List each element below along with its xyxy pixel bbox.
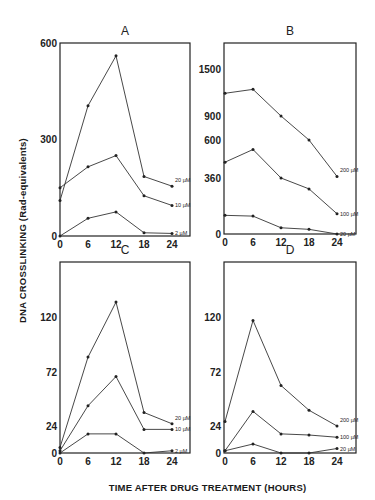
panel-a-data-point [171, 185, 174, 188]
panel-c-data-point [171, 422, 174, 425]
panel-c-data-point [143, 411, 146, 414]
panel-a-data-point [115, 154, 118, 157]
panel-c-series-line [60, 434, 172, 453]
panel-a-series-line [60, 212, 172, 236]
panel-d-data-point [280, 384, 283, 387]
panel-c-data-point [171, 449, 174, 452]
panel-a-ytick: 300 [40, 134, 57, 145]
panel-c-series-label: 2 µM [175, 448, 188, 454]
panel-d-ytick: 120 [204, 312, 221, 323]
panel-b-data-point [224, 161, 227, 164]
panel-b-data-point [336, 175, 339, 178]
panel-d-series-line [225, 320, 337, 426]
figure-canvas: A06121824030060020 µM10 µM2 µMB061218240… [0, 0, 375, 500]
panel-b-data-point [336, 233, 339, 236]
panel-a-series-label: 20 µM [175, 177, 191, 183]
panel-a-data-point [59, 235, 62, 238]
panel-b-data-point [224, 92, 227, 95]
panel-d-series-label: 20 µM [340, 446, 356, 452]
panel-b-xtick: 6 [250, 237, 256, 248]
panel-a-data-point [59, 186, 62, 189]
panel-b-frame [224, 43, 356, 234]
panel-c-data-point [143, 428, 146, 431]
panel-a-title: A [121, 24, 129, 38]
panel-a-series-line [60, 56, 172, 201]
panel-a-data-point [59, 199, 62, 202]
panel-c-ytick: 24 [46, 421, 58, 432]
panel-d-data-point [252, 319, 255, 322]
panel-a-series-label: 10 µM [175, 202, 191, 208]
y-axis-label: DNA CROSSLINKING (Rad-equivalents) [17, 121, 28, 341]
panel-a-xtick: 6 [85, 239, 91, 250]
panel-a-xtick: 24 [166, 239, 178, 250]
panel-c-ytick: 120 [40, 312, 57, 323]
panel-c-data-point [87, 356, 90, 359]
panel-b-data-point [280, 226, 283, 229]
panel-d-xtick: 18 [303, 456, 315, 467]
panel-c-xtick: 12 [110, 456, 122, 467]
panel-d-data-point [224, 449, 227, 452]
panel-c-xtick: 24 [166, 456, 178, 467]
panel-d-xtick: 24 [331, 456, 343, 467]
panel-b-series-line [225, 150, 337, 214]
panel-b-series-label: 20 µM [340, 231, 356, 237]
panel-d-data-point [280, 452, 283, 455]
panel-a-frame [60, 43, 190, 236]
panel-a-data-point [115, 210, 118, 213]
panel-d-xtick: 0 [222, 456, 228, 467]
panel-d-data-point [308, 409, 311, 412]
panel-d-data-point [252, 410, 255, 413]
panel-b-data-point [336, 212, 339, 215]
panel-c-data-point [87, 404, 90, 407]
panel-d-title: D [286, 243, 295, 257]
panel-a-data-point [143, 175, 146, 178]
panel-b-ytick: 1500 [199, 64, 222, 75]
panel-c-data-point [171, 428, 174, 431]
panel-a-data-point [171, 232, 174, 235]
panel-d-data-point [224, 420, 227, 423]
panel-b-data-point [308, 187, 311, 190]
panel-b-data-point [308, 228, 311, 231]
panel-d-data-point [252, 443, 255, 446]
panel-c-data-point [115, 375, 118, 378]
panel-d-data-point [308, 452, 311, 455]
panel-d-series-label: 200 µM [340, 417, 359, 423]
panel-d-xtick: 6 [250, 456, 256, 467]
panel-c-series-label: 20 µM [175, 415, 191, 421]
panel-d-data-point [336, 425, 339, 428]
panel-c-ytick: 72 [46, 367, 58, 378]
panel-b-series-line [225, 215, 337, 234]
panel-d-xtick: 12 [275, 456, 287, 467]
panel-b-ytick: 900 [204, 111, 221, 122]
panel-c-data-point [115, 301, 118, 304]
panel-b-ytick: 0 [215, 229, 221, 240]
panel-b-data-point [224, 214, 227, 217]
panel-b-data-point [252, 215, 255, 218]
panel-c-xtick: 18 [138, 456, 150, 467]
panel-a-data-point [87, 165, 90, 168]
panel-c-data-point [87, 432, 90, 435]
panel-b-data-point [280, 115, 283, 118]
panel-b-series-line [225, 89, 337, 176]
panel-b-data-point [252, 148, 255, 151]
panel-a-data-point [87, 104, 90, 107]
x-axis-label: TIME AFTER DRUG TREATMENT (HOURS) [40, 482, 375, 493]
panel-a-data-point [115, 54, 118, 57]
panel-b-ytick: 360 [204, 173, 221, 184]
panel-c-xtick: 6 [85, 456, 91, 467]
panel-b-xtick: 0 [222, 237, 228, 248]
panel-a-data-point [171, 204, 174, 207]
panel-d-data-point [308, 434, 311, 437]
panel-b-xtick: 24 [331, 237, 343, 248]
panel-b-series-label: 100 µM [340, 211, 359, 217]
panel-c-data-point [115, 432, 118, 435]
panel-c-data-point [143, 452, 146, 455]
panel-b-data-point [252, 88, 255, 91]
panel-d-ytick: 24 [210, 421, 222, 432]
panel-d-data-point [280, 432, 283, 435]
panel-b-series-label: 200 µM [340, 167, 359, 173]
panel-b-data-point [308, 139, 311, 142]
panel-a-xtick: 0 [57, 239, 63, 250]
panel-b-ytick: 600 [204, 135, 221, 146]
panel-d-ytick: 0 [215, 448, 221, 459]
